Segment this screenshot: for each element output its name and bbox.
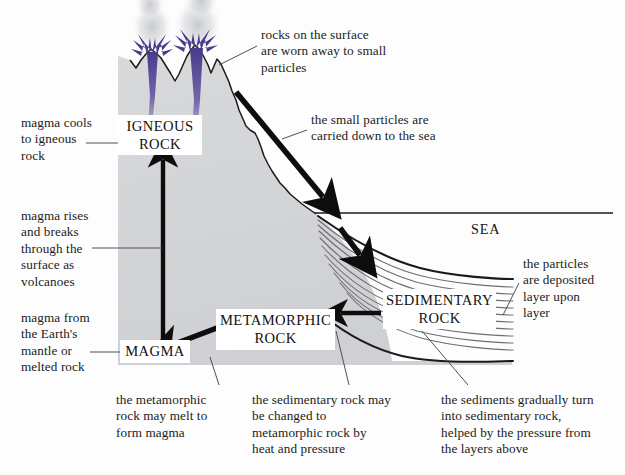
leader-particles-carried xyxy=(282,130,307,139)
caption-particles-carried: the small particles are carried down to … xyxy=(311,112,436,145)
sedimentary-rock-label: SEDIMENTARY ROCK xyxy=(383,289,496,329)
sea-label: SEA xyxy=(471,221,500,238)
caption-metamorphic-melt: the metamorphic rock may melt to form ma… xyxy=(116,392,207,441)
caption-particles-deposited: the particles are deposited layer upon l… xyxy=(523,256,594,322)
igneous-rock-label: IGNEOUS ROCK xyxy=(118,115,202,155)
leader-particles-deposited xyxy=(503,283,519,315)
caption-sediments-turn: the sediments gradually turn into sedime… xyxy=(441,392,594,458)
caption-magma-cools: magma cools to igneous rock xyxy=(21,115,92,164)
caption-rocks-worn-away: rocks on the surface are worn away to sm… xyxy=(261,27,386,76)
metamorphic-rock-label: METAMORPHIC ROCK xyxy=(216,309,335,350)
leader-rocks-worn-away xyxy=(219,46,257,65)
rock-cycle-diagram: IGNEOUS ROCKMAGMAMETAMORPHIC ROCKSEDIMEN… xyxy=(0,0,625,475)
caption-magma-from-mantle: magma from the Earth's mantle or melted … xyxy=(21,310,90,376)
caption-magma-rises: magma rises and breaks through the surfa… xyxy=(21,208,88,290)
magma-label: MAGMA xyxy=(120,340,190,363)
caption-sedimentary-to-metamorphic: the sedimentary rock may be changed to m… xyxy=(252,392,391,458)
